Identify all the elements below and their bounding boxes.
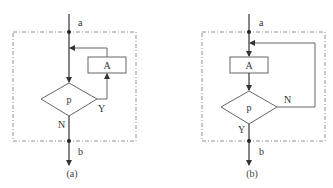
condition-label-b: p: [247, 102, 252, 113]
true-branch-label-b: Y: [238, 124, 245, 135]
caption-b: (b): [246, 168, 258, 180]
process-label-b: A: [245, 60, 253, 71]
false-branch-label-b: N: [284, 94, 291, 105]
entry-label-b: a: [259, 17, 264, 28]
caption-a: (a): [66, 168, 77, 180]
diagram-b: A p N Y a b (b): [202, 14, 325, 180]
loop-back-arrow-a: [70, 48, 107, 57]
condition-label-a: p: [67, 94, 72, 105]
process-label-a: A: [103, 60, 111, 71]
true-branch-arrow-a: [97, 74, 107, 99]
exit-label-a: b: [78, 146, 83, 157]
diagram-a: A p Y N a b (a): [13, 14, 136, 180]
true-branch-label-a: Y: [98, 103, 105, 114]
flowchart-canvas: A p Y N a b (a) A p N Y: [0, 0, 333, 188]
exit-label-b: b: [259, 146, 264, 157]
boundary-box-b: [202, 32, 325, 141]
entry-label-a: a: [78, 17, 83, 28]
false-branch-label-a: N: [58, 119, 65, 130]
